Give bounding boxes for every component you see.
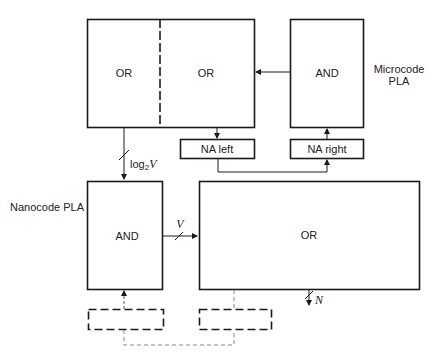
or-left-label: OR (116, 67, 133, 79)
n-bus-label: N (315, 294, 323, 306)
microcode-pla-label-line1: Microcode (374, 63, 425, 75)
log2v-variable: V (149, 157, 156, 171)
dashed-register-left (89, 310, 164, 330)
log2v-label: log2V (130, 158, 156, 174)
v-bus (163, 232, 197, 240)
na-right-label: NA right (307, 143, 346, 155)
na-left-to-na-right-connector (218, 159, 327, 172)
microcode-and-label: AND (315, 67, 338, 79)
na-left-label: NA left (201, 143, 233, 155)
n-output-bus (305, 290, 313, 305)
or-right-label: OR (198, 67, 215, 79)
nanocode-or-label: OR (301, 229, 318, 241)
nanocode-and-label: AND (115, 230, 138, 242)
dashed-register-right (200, 310, 272, 330)
register-feedback-connector (124, 330, 234, 345)
log2v-bus (119, 128, 129, 179)
microcode-pla-label: Microcode PLA (374, 63, 425, 87)
log2v-prefix: log (130, 158, 145, 170)
v-bus-label: V (176, 218, 183, 230)
microcode-pla-label-line2: PLA (374, 75, 425, 87)
diagram-canvas (0, 0, 440, 355)
nanocode-pla-label: Nanocode PLA (10, 201, 84, 213)
microcode-or-block (88, 19, 255, 128)
